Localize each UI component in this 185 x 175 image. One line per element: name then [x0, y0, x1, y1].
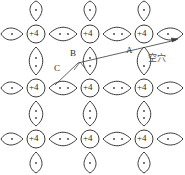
- bond-stub-right-r3: [157, 133, 183, 145]
- bond-h-r2c2c3: [103, 81, 131, 95]
- hole-label: 空穴: [148, 54, 166, 63]
- bond-v-c3r2r3: [137, 101, 151, 126]
- bond-stub-bottom-c2: [84, 152, 96, 173]
- core-label-r1c1: +4: [29, 29, 39, 38]
- core-label-r1c2: +4: [83, 29, 93, 38]
- core-label-r2c2: +4: [83, 83, 93, 92]
- bond-stub-top-c1: [30, 1, 42, 21]
- bond-h-r1c2c3: [103, 27, 131, 41]
- annotation-label-c: C: [54, 64, 60, 73]
- core-label-r3c2: +4: [83, 134, 93, 143]
- core-label-r2c1: +4: [29, 83, 39, 92]
- annotation-label-b: B: [70, 49, 76, 58]
- figure-canvas: +4 +4 +4 +4 +4 +4 +4 +4 +4 A B C 空穴: [0, 0, 185, 175]
- bond-h-r1c1c2: [49, 27, 77, 41]
- bond-v-c1r1r2: [29, 47, 43, 75]
- bond-stub-left-r1: [1, 28, 23, 40]
- core-label-r3c3: +4: [137, 134, 147, 143]
- bond-stub-left-r3: [1, 133, 23, 145]
- annotation-label-a: A: [126, 46, 133, 55]
- bond-stub-top-c3: [138, 1, 150, 21]
- bond-stub-left-r2: [1, 82, 23, 94]
- core-label-r1c3: +4: [137, 29, 147, 38]
- bond-stub-bottom-c3: [138, 152, 150, 173]
- bond-stub-top-c2: [84, 1, 96, 21]
- bond-h-r2c1c2: [49, 81, 77, 95]
- bond-v-c2r2r3: [83, 101, 97, 126]
- bond-stub-right-r2: [157, 82, 183, 94]
- bond-stub-bottom-c1: [30, 152, 42, 173]
- bond-h-r3c1c2: [49, 132, 77, 146]
- core-label-r3c1: +4: [29, 134, 39, 143]
- bond-v-c1r2r3: [29, 101, 43, 126]
- bond-stub-right-r1: [157, 28, 183, 40]
- core-label-r2c3: +4: [137, 83, 147, 92]
- bond-h-r3c2c3: [103, 132, 131, 146]
